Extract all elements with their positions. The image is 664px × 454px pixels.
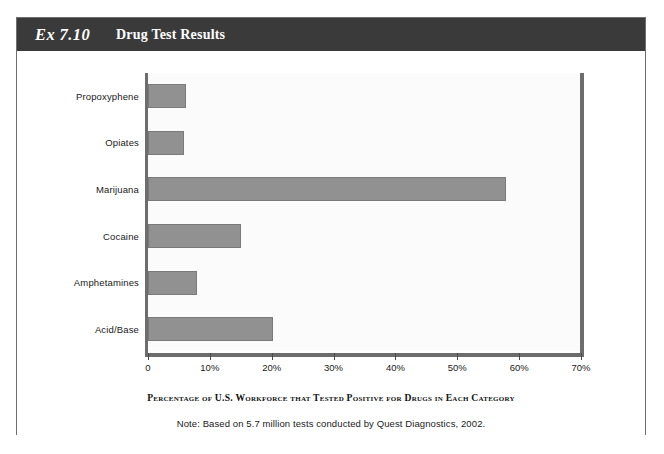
page: Ex 7.10 Drug Test Results PropoxypheneOp… — [0, 0, 664, 454]
x-tick — [581, 353, 582, 360]
x-tick-label: 0 — [145, 362, 150, 373]
x-tick — [210, 353, 211, 360]
x-axis-ticks: 010%20%30%40%50%60%70% — [148, 353, 581, 383]
bar-row — [148, 120, 184, 167]
x-tick-label: 50% — [448, 362, 467, 373]
category-axis-labels: PropoxypheneOpiatesMarijuanaCocaineAmphe… — [17, 73, 139, 353]
bar-series — [148, 73, 581, 353]
x-tick-label: 30% — [324, 362, 343, 373]
category-label: Cocaine — [17, 213, 139, 260]
x-tick-label: 40% — [386, 362, 405, 373]
bar-row — [148, 259, 197, 306]
category-label: Opiates — [17, 120, 139, 167]
x-tick — [334, 353, 335, 360]
bar — [148, 224, 241, 248]
chart-body: PropoxypheneOpiatesMarijuanaCocaineAmphe… — [17, 51, 645, 436]
bar-row — [148, 73, 186, 120]
category-label: Marijuana — [17, 166, 139, 213]
x-tick-label: 20% — [262, 362, 281, 373]
exhibit-frame: Ex 7.10 Drug Test Results PropoxypheneOp… — [16, 17, 646, 435]
category-label: Amphetamines — [17, 259, 139, 306]
bar — [148, 177, 506, 201]
bar — [148, 271, 197, 295]
bar — [148, 84, 186, 108]
category-label: Propoxyphene — [17, 73, 139, 120]
x-tick — [148, 353, 149, 360]
exhibit-number: Ex 7.10 — [35, 25, 90, 45]
bar-chart: PropoxypheneOpiatesMarijuanaCocaineAmphe… — [17, 51, 645, 436]
exhibit-title-bar: Ex 7.10 Drug Test Results — [17, 18, 645, 51]
bar-row — [148, 213, 241, 260]
bar-row — [148, 306, 273, 353]
x-tick-label: 70% — [571, 362, 590, 373]
bar — [148, 317, 273, 341]
x-tick — [272, 353, 273, 360]
x-tick — [457, 353, 458, 360]
x-tick — [519, 353, 520, 360]
x-tick — [395, 353, 396, 360]
bar — [148, 131, 184, 155]
category-label: Acid/Base — [17, 306, 139, 353]
exhibit-title: Drug Test Results — [116, 27, 225, 43]
x-axis-caption: Percentage of U.S. Workforce that Tested… — [17, 392, 645, 403]
bar-row — [148, 166, 506, 213]
chart-note: Note: Based on 5.7 million tests conduct… — [17, 418, 645, 429]
x-tick-label: 10% — [200, 362, 219, 373]
x-tick-label: 60% — [510, 362, 529, 373]
